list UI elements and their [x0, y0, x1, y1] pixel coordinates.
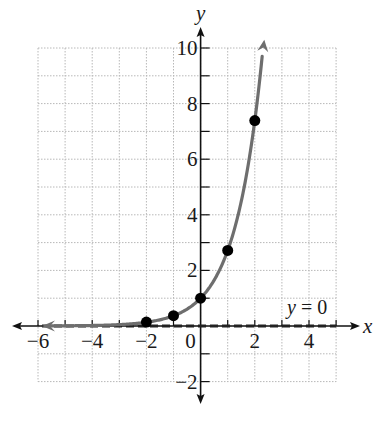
asymptote-label-var: y	[285, 296, 296, 319]
y-tick-label: 6	[187, 147, 198, 171]
y-tick-label: 4	[187, 203, 198, 227]
asymptote-label-rest: = 0	[296, 296, 327, 318]
y-tick-label: −2	[175, 370, 197, 394]
x-tick-label: −6	[27, 329, 49, 353]
data-point	[222, 245, 233, 256]
x-tick-label: −4	[81, 329, 104, 353]
x-axis-label: x	[362, 314, 373, 338]
asymptote-label: y = 0	[285, 296, 327, 319]
y-tick-label: 8	[187, 92, 198, 116]
data-point	[141, 317, 152, 328]
y-tick-label: 2	[187, 258, 198, 282]
curve-path	[49, 56, 262, 326]
data-point	[249, 115, 260, 126]
x-tick-label: −2	[135, 329, 157, 353]
curve	[42, 40, 268, 332]
curve-up-arrow-icon	[257, 40, 268, 53]
x-tick-label: 2	[250, 329, 261, 353]
y-tick-label: 10	[177, 36, 198, 60]
exponential-graph: −6−4−2024108642−2 x y y = 0	[0, 0, 385, 422]
data-point	[168, 310, 179, 321]
x-tick-label: 0	[185, 329, 196, 353]
data-point	[195, 293, 206, 304]
y-axis-label: y	[194, 1, 206, 25]
x-tick-label: 4	[304, 329, 315, 353]
